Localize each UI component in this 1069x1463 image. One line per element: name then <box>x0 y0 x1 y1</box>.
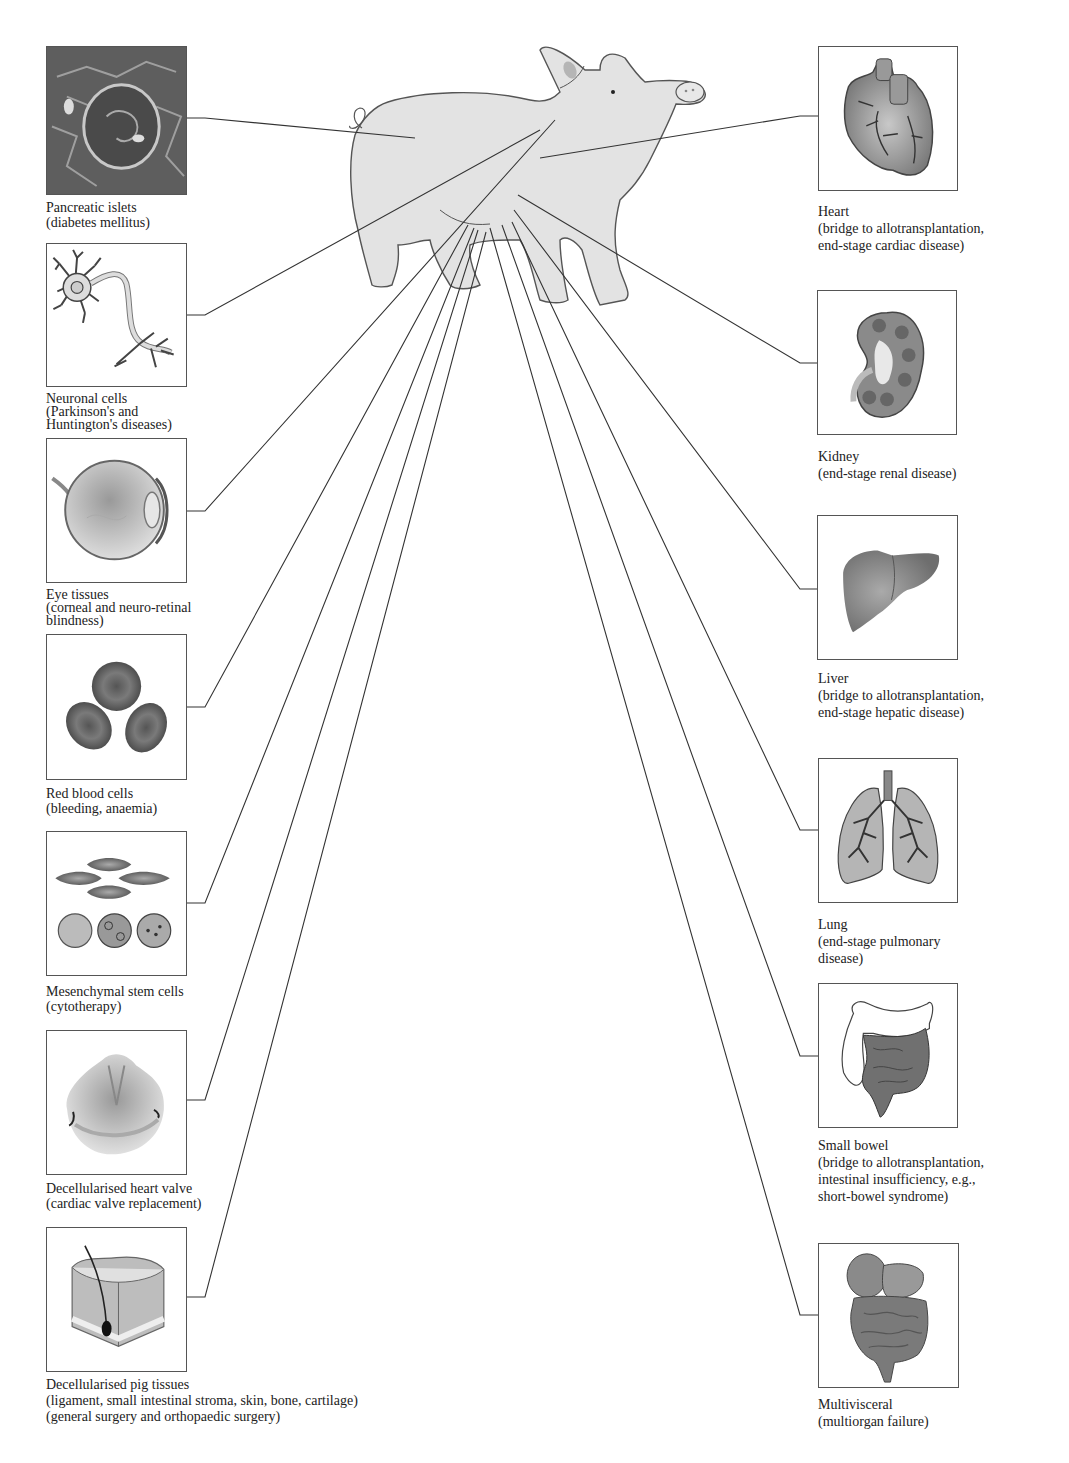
panel-description-line1: (ligament, small intestinal stroma, skin… <box>46 1393 358 1409</box>
caption-multivisceral: Multivisceral (multiorgan failure) <box>818 1396 929 1430</box>
panel-description-line3: short-bowel syndrome) <box>818 1188 984 1205</box>
panel-description-line2: end-stage cardiac disease) <box>818 237 984 254</box>
panel-description: (bleeding, anaemia) <box>46 801 157 816</box>
panel-pancreatic-islets <box>46 46 187 195</box>
panel-title: Heart <box>818 203 984 220</box>
caption-small-bowel: Small bowel (bridge to allotransplantati… <box>818 1137 984 1205</box>
panel-description: (cardiac valve replacement) <box>46 1196 201 1211</box>
pig-illustration <box>350 47 706 305</box>
panel-heart-valve <box>46 1030 187 1175</box>
caption-pancreatic-islets: Pancreatic islets (diabetes mellitus) <box>46 200 150 230</box>
caption-heart-valve: Decellularised heart valve (cardiac valv… <box>46 1181 201 1211</box>
panel-title: Kidney <box>818 448 956 465</box>
panel-multivisceral <box>818 1243 959 1388</box>
panel-small-bowel <box>818 983 958 1128</box>
panel-title: Mesenchymal stem cells <box>46 984 184 999</box>
multivisceral-icon <box>819 1244 958 1387</box>
stem-cells-icon <box>47 832 186 975</box>
panel-title: Small bowel <box>818 1137 984 1154</box>
panel-title: Multivisceral <box>818 1396 929 1413</box>
panel-kidney <box>817 290 957 435</box>
panel-neuronal-cells <box>46 243 187 387</box>
panel-description: (diabetes mellitus) <box>46 215 150 230</box>
panel-description-line1: (bridge to allotransplantation, <box>818 687 984 704</box>
panel-red-blood-cells <box>46 634 187 780</box>
panel-description-line1: (bridge to allotransplantation, <box>818 220 984 237</box>
panel-description-line2: (general surgery and orthopaedic surgery… <box>46 1409 358 1425</box>
panel-title: Pancreatic islets <box>46 200 150 215</box>
caption-eye-tissues: Eye tissues (corneal and neuro-retinal b… <box>46 588 191 627</box>
panel-title: Lung <box>818 916 940 933</box>
caption-mesenchymal-stem-cells: Mesenchymal stem cells (cytotherapy) <box>46 984 184 1014</box>
panel-description: (end-stage renal disease) <box>818 465 956 482</box>
liver-icon <box>818 516 957 659</box>
red-blood-cells-icon <box>47 635 186 779</box>
caption-liver: Liver (bridge to allotransplantation, en… <box>818 670 984 721</box>
panel-title: Liver <box>818 670 984 687</box>
panel-title: Red blood cells <box>46 786 157 801</box>
panel-liver <box>817 515 958 660</box>
caption-heart: Heart (bridge to allotransplantation, en… <box>818 203 984 254</box>
lung-icon <box>819 759 957 902</box>
caption-neuronal-cells: Neuronal cells (Parkinson's and Huntingt… <box>46 392 172 431</box>
kidney-icon <box>818 291 956 434</box>
panel-description-line1: (end-stage pulmonary <box>818 933 940 950</box>
panel-description-line2: end-stage hepatic disease) <box>818 704 984 721</box>
eye-icon <box>47 439 186 582</box>
panel-description-line2: intestinal insufficiency, e.g., <box>818 1171 984 1188</box>
panel-description-line1: (bridge to allotransplantation, <box>818 1154 984 1171</box>
panel-description-line2: disease) <box>818 950 940 967</box>
neuron-icon <box>47 244 186 386</box>
caption-kidney: Kidney (end-stage renal disease) <box>818 448 956 482</box>
caption-red-blood-cells: Red blood cells (bleeding, anaemia) <box>46 786 157 816</box>
skin-tissue-icon <box>47 1228 186 1371</box>
panel-description: (cytotherapy) <box>46 999 184 1014</box>
panel-title: Decellularised heart valve <box>46 1181 201 1196</box>
caption-pig-tissues: Decellularised pig tissues (ligament, sm… <box>46 1377 358 1425</box>
panel-heart <box>818 46 958 191</box>
heart-valve-icon <box>47 1031 186 1174</box>
panel-eye-tissues <box>46 438 187 583</box>
intestine-icon <box>819 984 957 1127</box>
panel-lung <box>818 758 958 903</box>
panel-description-line2: blindness) <box>46 614 191 627</box>
xenotransplantation-diagram: Pancreatic islets (diabetes mellitus) Ne… <box>0 0 1069 1463</box>
panel-pig-tissues <box>46 1227 187 1372</box>
caption-lung: Lung (end-stage pulmonary disease) <box>818 916 940 967</box>
panel-description: (multiorgan failure) <box>818 1413 929 1430</box>
heart-icon <box>819 47 957 190</box>
pancreatic-islet-micrograph <box>47 47 186 194</box>
panel-mesenchymal-stem-cells <box>46 831 187 976</box>
leader-lines <box>186 116 818 1315</box>
panel-title: Decellularised pig tissues <box>46 1377 358 1393</box>
panel-description-line2: Huntington's diseases) <box>46 418 172 431</box>
